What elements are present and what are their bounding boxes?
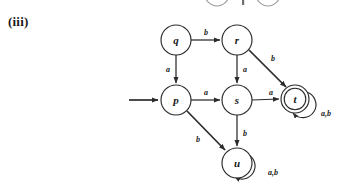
edge-q-to-r: b [191,28,220,41]
edge-label-u-loop: a,b [268,168,278,177]
state-label-s: s [234,94,239,106]
state-label-q: q [173,34,179,46]
edge-s-to-t: a [252,88,279,101]
edge-label-q-r: b [204,28,208,37]
state-node-u[interactable]: u [222,148,252,178]
edge-label-p-u: b [196,135,200,144]
edge-q-to-p: a [166,55,176,83]
state-node-p[interactable]: p [161,85,191,115]
state-label-p: p [172,94,179,106]
state-node-r[interactable]: r [222,25,252,55]
edge-label-s-t: a [269,88,273,97]
edge-p-to-u: b [187,111,225,150]
edge-s-to-u: b [237,115,247,146]
edge-label-q-p: a [166,65,170,74]
state-label-r: r [235,34,240,46]
edge-r-to-t: b [249,50,286,87]
automaton-diagram: b a a b a b a [0,0,341,185]
state-node-s[interactable]: s [222,85,252,115]
state-node-t[interactable]: t [281,85,309,113]
edge-label-r-t: b [271,54,275,63]
figure-container: (iii) b a [0,0,341,185]
state-label-u: u [234,157,240,169]
edge-label-t-loop: a,b [321,109,331,118]
page-artifact-top [205,0,280,6]
edge-p-to-s: a [191,88,220,101]
state-node-q[interactable]: q [161,25,191,55]
edge-r-to-s: a [237,55,247,83]
edge-label-s-u: b [243,129,247,138]
edge-label-p-s: a [204,88,208,97]
edge-label-r-s: a [243,65,247,74]
